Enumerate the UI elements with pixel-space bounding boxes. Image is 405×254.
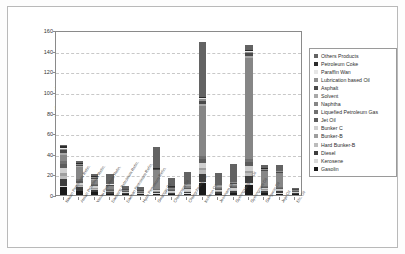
legend-label: Kerosene [321,158,343,164]
legend-swatch-icon [314,102,318,106]
legend-swatch-icon [314,86,318,90]
legend-item[interactable]: Gasolin [314,165,393,173]
legend-label: Asphalt [321,85,338,91]
bar-segment [199,106,206,156]
bar-segment [60,187,67,195]
legend-item[interactable]: Kerosene [314,157,393,165]
bar-stack[interactable] [60,145,67,195]
legend-item[interactable]: Asphalt [314,84,393,92]
legend-label: Bunker C [321,125,343,131]
bar-stack[interactable] [199,42,206,195]
legend-label: Others Products [321,53,358,59]
bar-segment [230,193,237,195]
legend-item[interactable]: Naphtha [314,100,393,108]
bar-segment [153,147,160,168]
bar-stack[interactable] [292,188,299,195]
bar-series-container [56,32,301,195]
y-tick-label: 140 [31,49,53,55]
legend-label: Petroleum Coke [321,61,358,67]
x-axis-labels: Nasan Petroleum Refin.Ausan Petroleum Re… [55,197,302,254]
legend-item[interactable]: Petroleum Coke [314,60,393,68]
legend-swatch-icon [314,94,318,98]
legend-item[interactable]: Bunker C [314,124,393,132]
bar-segment [245,58,252,159]
legend-swatch-icon [314,134,318,138]
legend-swatch-icon [314,167,318,171]
legend-item[interactable]: Hard Bunker-B [314,141,393,149]
legend-swatch-icon [314,110,318,114]
legend-swatch-icon [314,62,318,66]
legend-swatch-icon [314,54,318,58]
chart-legend: Others ProductsPetroleum CokeParaffin Wa… [309,48,397,177]
y-tick-label: 20 [31,172,53,178]
bar-segment [91,192,98,195]
legend-label: Naphtha [321,101,341,107]
bar-segment [230,164,237,181]
legend-swatch-icon [314,118,318,122]
legend-item[interactable]: Diesel [314,149,393,157]
legend-item[interactable]: Liquefied Petroleum Gas [314,108,393,116]
legend-swatch-icon [314,143,318,147]
plot-area [55,31,302,196]
legend-swatch-icon [314,159,318,163]
legend-label: Paraffin Wan [321,69,351,75]
y-tick-label: 60 [31,131,53,137]
legend-label: Diesel [321,150,335,156]
legend-item[interactable]: Others Products [314,52,393,60]
y-tick-label: 80 [31,111,53,117]
legend-label: Gasolin [321,166,339,172]
bar-segment [199,42,206,97]
legend-item[interactable]: Paraffin Wan [314,68,393,76]
legend-swatch-icon [314,126,318,130]
y-tick-label: 100 [31,90,53,96]
legend-swatch-icon [314,151,318,155]
y-tick-label: 160 [31,28,53,34]
y-axis-ticks: 160140120100806040200 [28,31,53,196]
legend-item[interactable]: Lubrication based Oil [314,76,393,84]
y-tick-label: 40 [31,152,53,158]
legend-label: Lubrication based Oil [321,77,370,83]
legend-item[interactable]: Jet Oil [314,116,393,124]
legend-swatch-icon [314,78,318,82]
y-tick-label: 0 [31,193,53,199]
legend-label: Jet Oil [321,117,336,123]
figure-border: (million bbl.) 160140120100806040200 Nas… [7,6,398,248]
legend-label: Hard Bunker-B [321,142,355,148]
y-tick-label: 120 [31,69,53,75]
legend-label: Bunker-B [321,133,343,139]
legend-item[interactable]: Bunker-B [314,132,393,140]
legend-label: Liquefied Petroleum Gas [321,109,378,115]
legend-item[interactable]: Solvent [314,92,393,100]
bar-segment [60,179,67,186]
legend-label: Solvent [321,93,338,99]
legend-swatch-icon [314,70,318,74]
bar-segment [215,173,222,184]
chart-figure: (million bbl.) 160140120100806040200 Nas… [0,0,405,254]
bar-stack[interactable] [230,164,237,195]
